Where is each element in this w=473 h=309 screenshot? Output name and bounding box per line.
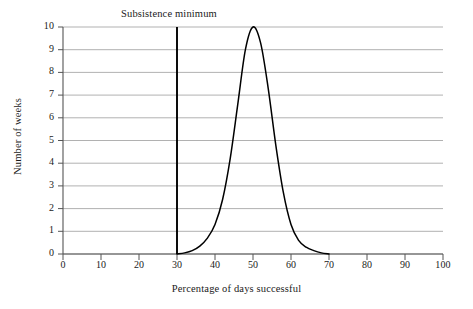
x-tick-label-60: 60 [274, 259, 308, 270]
y-tick-label-4: 4 [32, 156, 54, 167]
x-tick-label-100: 100 [426, 259, 460, 270]
x-tick-label-10: 10 [84, 259, 118, 270]
gridline-group [63, 27, 443, 254]
subsistence-minimum-label: Subsistence minimum [121, 8, 217, 19]
y-tick-label-10: 10 [32, 20, 54, 31]
x-tick-label-30: 30 [160, 259, 194, 270]
chart-figure: Subsistence minimum Percentage of days s… [0, 0, 473, 309]
x-tick-label-0: 0 [46, 259, 80, 270]
y-tick-label-8: 8 [32, 65, 54, 76]
y-tick-label-1: 1 [32, 224, 54, 235]
y-tick-label-6: 6 [32, 111, 54, 122]
x-tick-label-40: 40 [198, 259, 232, 270]
y-tick-label-0: 0 [32, 247, 54, 258]
x-tick-label-80: 80 [350, 259, 384, 270]
x-tick-label-20: 20 [122, 259, 156, 270]
y-tick-mark-group [58, 27, 63, 254]
y-axis-title: Number of weeks [12, 82, 23, 192]
x-tick-label-70: 70 [312, 259, 346, 270]
y-tick-label-3: 3 [32, 179, 54, 190]
x-axis-title: Percentage of days successful [0, 283, 473, 294]
y-tick-label-9: 9 [32, 43, 54, 54]
y-tick-label-7: 7 [32, 88, 54, 99]
y-tick-label-5: 5 [32, 134, 54, 145]
x-tick-label-90: 90 [388, 259, 422, 270]
x-tick-label-50: 50 [236, 259, 270, 270]
y-tick-label-2: 2 [32, 202, 54, 213]
